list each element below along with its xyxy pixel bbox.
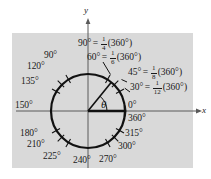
equation-90-lhs: 90° <box>78 39 91 49</box>
degree-label-330: 315° <box>125 129 143 139</box>
x-axis-label: x <box>202 106 206 115</box>
equation-30-fraction: 1 12 <box>153 80 162 96</box>
equation-45-lhs: 45° <box>128 68 141 78</box>
equation-60-fraction: 1 6 <box>110 50 116 66</box>
equation-30-numerator: 1 <box>154 80 160 88</box>
equation-45-rhs: (360°) <box>158 68 182 78</box>
leader-line-45 <box>122 80 128 83</box>
degree-label-210: 180° <box>20 129 38 139</box>
equation-60-numerator: 1 <box>110 50 116 58</box>
equation-60-lhs: 60° <box>87 53 100 63</box>
equation-45-op: = <box>141 68 149 78</box>
degree-label-135: 120° <box>27 62 45 72</box>
equation-60: 60° = 1 6 (360°) <box>87 50 141 66</box>
terminal-side-ray <box>88 82 111 111</box>
degree-label-0: 0° <box>128 101 136 111</box>
theta-label: θ <box>101 99 106 110</box>
equation-90-numerator: 1 <box>101 36 107 44</box>
degree-label-315: 300° <box>118 142 136 152</box>
degree-label-120: 90° <box>44 51 57 61</box>
equation-30-op: = <box>143 83 151 93</box>
y-axis-label: y <box>84 6 88 15</box>
degree-label-360: 360° <box>128 114 146 124</box>
degree-label-240: 225° <box>43 152 61 162</box>
equation-30-lhs: 30° <box>130 83 143 93</box>
degree-label-300: 270° <box>99 155 117 165</box>
equation-30: 30° = 1 12 (360°) <box>130 80 187 96</box>
equation-60-rhs: (360°) <box>117 53 141 63</box>
equation-45-numerator: 1 <box>151 65 157 73</box>
unit-circle-figure: y x θ 90° = 1 4 (360°) 60° = 1 6 (360°) … <box>0 0 211 179</box>
equation-90-op: = <box>91 39 99 49</box>
degree-label-180: 150° <box>15 101 33 111</box>
equation-60-op: = <box>100 53 108 63</box>
degree-label-225: 210° <box>27 140 45 150</box>
equation-30-denominator: 12 <box>153 89 162 97</box>
equation-60-denominator: 6 <box>110 59 116 67</box>
equation-30-rhs: (360°) <box>163 83 187 93</box>
degree-label-150: 135° <box>21 77 39 87</box>
equation-90-rhs: (360°) <box>108 39 132 49</box>
degree-label-270: 240° <box>73 156 91 166</box>
